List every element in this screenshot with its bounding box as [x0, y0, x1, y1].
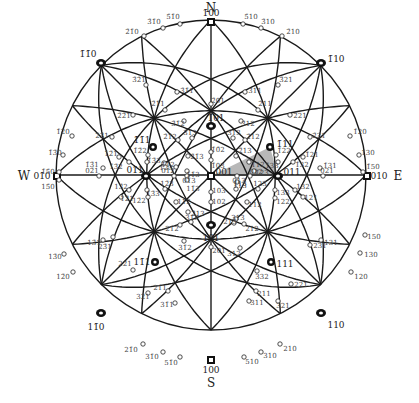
pole-circle-icon [57, 178, 61, 182]
pole-circle-icon [241, 22, 245, 26]
pole-label: 5̄10 [244, 14, 257, 21]
pole-label: 212 [245, 226, 258, 233]
pole-label: 3̄1̄0 [147, 19, 160, 26]
pole-circle-icon [62, 252, 66, 256]
pole-label: 02̄1 [85, 168, 98, 175]
pole-circle-icon [308, 243, 312, 247]
pole-circle-icon [259, 26, 263, 30]
pole-label: 1̄2̄1 [104, 151, 117, 158]
pole-label: 312 [227, 251, 240, 258]
pole-label: 11̄3 [186, 186, 199, 193]
pole-label: 1̄22 [277, 148, 290, 155]
pole-circle-icon [110, 135, 114, 139]
pole-circle-icon [243, 90, 247, 94]
pole-circle-icon [101, 166, 105, 170]
pole-label: 130 [364, 252, 377, 259]
pole-label: 2̄21 [293, 113, 306, 120]
pole-label: 31̄3 [185, 215, 198, 222]
pole-circle-icon [131, 268, 135, 272]
pole-label: 13̄0 [48, 254, 61, 261]
cardinal-label: E [394, 169, 403, 183]
pole-label: 1̄2̄2 [133, 148, 146, 155]
pole-label: 3̄1̄1 [180, 88, 193, 95]
pole-label: 32̄1 [136, 294, 149, 301]
pole-circle-icon [111, 235, 115, 239]
pole-label: 3̄10 [261, 19, 274, 26]
pole-label: 1̄1̄1 [133, 136, 150, 145]
pole-label: 231 [313, 243, 326, 250]
pole-label: 211 [257, 291, 270, 298]
pole-label: 2̄3̄1 [95, 133, 108, 140]
pole-label: 1̄30 [361, 150, 374, 157]
pole-circle-icon [141, 342, 145, 346]
pole-label: 3̄2̄1 [132, 77, 145, 84]
pole-label: 110 [327, 321, 344, 330]
pole-circle-icon [349, 270, 353, 274]
pole-label: 112 [248, 202, 261, 209]
pole-label: 311 [250, 300, 263, 307]
pole-label: 2̄10 [286, 29, 299, 36]
pole-label: 01̄3 [182, 178, 195, 185]
pole-label: 11̄0 [87, 323, 104, 332]
pole-label: 21̄0 [124, 347, 137, 354]
pole-label: 103 [212, 188, 225, 195]
pole-label: 1̄21 [305, 152, 318, 159]
pole-label: 3̄13 [227, 130, 240, 137]
pole-label: 1̄20 [353, 129, 366, 136]
pole-label: 1̄5̄0 [41, 169, 54, 176]
pole-label: 12̄2 [132, 198, 145, 205]
pole-label: 101 [202, 234, 219, 243]
pole-label: 510 [245, 359, 258, 366]
pole-label: 21̄1 [153, 285, 166, 292]
pole-label: 1̄32 [295, 162, 308, 169]
pole-label: 321 [276, 303, 289, 310]
pole-label: 3̄11 [248, 88, 261, 95]
pole-label: 221 [294, 282, 307, 289]
pole-label: 1̄03 [211, 163, 224, 170]
pole-label: 21̄2 [165, 226, 178, 233]
pole-label: 021 [320, 168, 333, 175]
pole-label: 31̄2 [178, 245, 191, 252]
pole-label: 102 [212, 199, 225, 206]
pole-label: 22̄1 [118, 261, 131, 268]
pole-label: 210 [283, 346, 296, 353]
pole-circle-icon [142, 34, 146, 38]
pole-label: 12̄0 [56, 274, 69, 281]
pole-label: 150 [367, 234, 380, 241]
cardinal-label: S [207, 376, 215, 390]
pole-label: 011 [283, 168, 300, 177]
cardinal-label: N [206, 1, 217, 15]
pole-label: 2̄31 [312, 133, 325, 140]
pole-label: 2̄1̄2 [163, 134, 176, 141]
pole-label: 201 [212, 248, 225, 255]
pole-label: 13̄2 [114, 184, 127, 191]
pole-label: 3̄21 [279, 77, 292, 84]
pole-label: 310 [263, 353, 276, 360]
pole-label: 010 [370, 172, 387, 181]
pole-label: 01̄2 [161, 168, 174, 175]
pole-circle-icon [178, 22, 182, 26]
pole-label: 113 [233, 181, 246, 188]
pole-label: 3̄1̄3 [183, 130, 196, 137]
pole-label: 31̄1 [160, 302, 173, 309]
pole-circle-icon [163, 108, 167, 112]
pole-circle-icon [288, 113, 292, 117]
pole-label: 122 [276, 199, 289, 206]
pole-label: 100 [202, 366, 219, 375]
pole-label: 2̄1̄0 [125, 29, 138, 36]
pole-circle-icon [256, 108, 260, 112]
pole-label: 31̄0 [145, 354, 158, 361]
pole-label: 5̄1̄0 [166, 14, 179, 21]
pole-label: 2̄2̄1 [117, 113, 130, 120]
pole-circle-icon [57, 170, 61, 174]
pole-circle-icon [278, 342, 282, 346]
pole-label: 1̄3̄2 [109, 164, 122, 171]
pole-label: 1̄3̄3 [146, 191, 159, 198]
pole-label: 332 [255, 274, 268, 281]
pole-label: 120 [354, 274, 367, 281]
pole-label: 01̄1 [126, 166, 143, 175]
pole-label: 313 [231, 215, 244, 222]
pole-circle-icon [161, 26, 165, 30]
pole-label: 12̄3 [160, 181, 173, 188]
pole-label: 2̄12 [246, 134, 259, 141]
